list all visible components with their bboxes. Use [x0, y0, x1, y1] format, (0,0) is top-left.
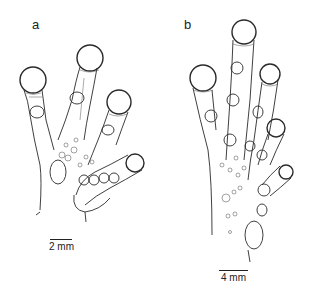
scale-bar-b	[219, 270, 248, 271]
scale-label-a: 2 mm	[49, 241, 74, 252]
panel-b-hand-drawing	[0, 0, 312, 293]
scale-label-b: 4 mm	[221, 272, 246, 283]
figure: a b	[0, 0, 312, 293]
scale-bar-a	[50, 239, 72, 240]
